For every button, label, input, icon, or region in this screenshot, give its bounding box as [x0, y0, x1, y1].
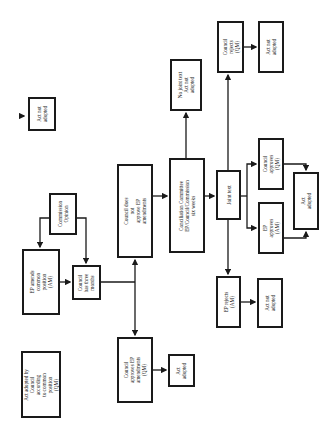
node-no-joint-text: No joint text Act not adopted [170, 59, 202, 111]
node-act-adopted-lower: Act adopted [168, 354, 195, 387]
node-label: EP amends common position (AM) [29, 265, 53, 299]
node-council-three-months: Council has three months [72, 265, 101, 300]
node-label: EP approves (AM) [262, 217, 280, 239]
node-ep-rejects: EP rejects (AM) [216, 276, 241, 328]
node-joint-text: Joint text [216, 170, 241, 220]
node-label: EP rejects (AM) [223, 292, 235, 313]
node-commission-opinion: Commission Opinion [49, 193, 77, 235]
node-council-approves-qm: Council approves (QM) [258, 138, 284, 190]
node-label: Act adopted [300, 190, 312, 212]
node-council-approves-ep-amendments: Council approves EP amendments (QM) [117, 337, 153, 403]
node-ep-approves: EP approves (AM) [258, 202, 284, 254]
node-label: Act not adopted [264, 292, 276, 314]
node-label: Council approves EP amendments (QM) [123, 354, 147, 386]
node-conciliation-committee: Conciliation Committee EP/Council/Commis… [169, 158, 205, 253]
node-label: Council approves (QM) [262, 153, 280, 175]
node-label: Council has three months [78, 273, 96, 292]
node-act-adopted-right: Act adopted [293, 172, 319, 230]
node-act-adopted-common-position: Act adopted by Council according to comm… [21, 351, 61, 418]
node-label: Conciliation Committee EP/Council/Commis… [178, 180, 196, 232]
node-label: Commission Opinion [57, 201, 69, 227]
node-label: Act adopted by Council according to comm… [23, 367, 59, 403]
node-label: Council rejects (QM) [222, 36, 240, 59]
node-label: Act not adopted [36, 106, 48, 122]
node-council-rejects: Council rejects (QM) [217, 21, 244, 73]
node-label: Joint text [225, 185, 231, 204]
node-label: Act not adopted [265, 36, 277, 58]
node-label: No joint text Act not adopted [177, 71, 195, 99]
node-act-not-adopted-top: Act not adopted [28, 97, 56, 131]
node-label: Council does not approve EP amendments [123, 195, 147, 227]
node-council-does-not-approve: Council does not approve EP amendments [117, 164, 153, 258]
node-act-not-adopted-lower-right: Act not adopted [257, 278, 283, 328]
node-act-not-adopted-top-right: Act not adopted [258, 21, 284, 73]
node-ep-amends-common-position: EP amends common position (AM) [22, 249, 60, 315]
flowchart-canvas: Act not adopted EP amends common positio… [0, 0, 336, 433]
node-label: Act adopted [175, 362, 187, 378]
